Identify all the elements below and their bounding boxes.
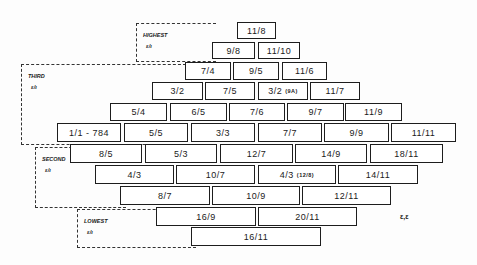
ratio-box: 20/11 — [258, 207, 357, 226]
ratio-label: 11/11 — [412, 128, 436, 138]
ratio-label: 8/5 — [99, 149, 113, 159]
ratio-label: 18/11 — [394, 149, 418, 159]
ratio-label: 3/2 — [268, 86, 282, 96]
ratio-label: 12/11 — [334, 191, 358, 201]
ratio-box: 8/7 — [120, 186, 210, 205]
ratio-label: 4/3 — [127, 170, 141, 180]
ratio-label: 7/5 — [223, 86, 237, 96]
ratio-box: 3/2(9A) — [258, 82, 308, 100]
ratio-note: (12/8) — [297, 172, 314, 178]
ratio-box: 9/9 — [324, 123, 389, 142]
ratio-box: 14/9 — [295, 144, 367, 163]
ratio-label: 14/11 — [366, 170, 390, 180]
ratio-box: 10/9 — [212, 186, 300, 205]
ratio-box: 18/11 — [370, 144, 443, 163]
ratio-label: 4/3 — [280, 170, 294, 180]
ratio-label: 16/11 — [244, 232, 268, 242]
ratio-label: 5/5 — [149, 128, 163, 138]
ratio-box: 5/4 — [110, 103, 167, 121]
ratio-label: 16/9 — [196, 212, 216, 222]
ratio-box: 8/5 — [70, 144, 142, 163]
ratio-box: 11/9 — [345, 103, 402, 121]
ratio-label: 10/7 — [206, 170, 226, 180]
ratio-box: 10/7 — [176, 165, 255, 184]
ratio-box: 11/7 — [310, 82, 360, 100]
ratio-label: 11/8 — [247, 26, 266, 36]
ratio-box: 1/1 - 784 — [57, 123, 121, 142]
ratio-box: 6/5 — [170, 103, 227, 121]
ratio-box: 7/4 — [185, 62, 231, 80]
group-label: THIRD — [28, 73, 45, 79]
ratio-box: 5/3 — [145, 144, 217, 163]
ratio-box: 4/3 — [95, 165, 174, 184]
ratio-label: 20/11 — [295, 212, 319, 222]
ratio-box: 7/7 — [258, 123, 322, 142]
ratio-label: 8/7 — [158, 191, 172, 201]
ratio-box: 9/8 — [212, 42, 255, 59]
ratio-label: 3/3 — [216, 128, 230, 138]
ratio-label: 10/9 — [246, 191, 266, 201]
ratio-box: 3/3 — [191, 123, 255, 142]
ratio-label: 9/9 — [349, 128, 363, 138]
ratio-label: 11/10 — [267, 46, 291, 56]
group-label: SECOND — [42, 156, 66, 162]
ratio-box: 9/5 — [233, 62, 279, 80]
ratio-label: 7/4 — [201, 66, 215, 76]
group-sublabel: ε/ι — [87, 229, 93, 235]
group-sublabel: ε/ι — [45, 167, 51, 173]
ratio-box: 16/9 — [156, 207, 256, 226]
ratio-label: 7/6 — [250, 107, 264, 117]
ratio-box: 12/11 — [302, 186, 391, 205]
ratio-box: 11/11 — [391, 123, 456, 142]
ratio-label: 9/8 — [226, 46, 240, 56]
ratio-label: 11/7 — [326, 86, 345, 96]
ratio-box: 12/7 — [220, 144, 293, 163]
group-label: HIGHEST — [143, 32, 167, 38]
ratio-box: 16/11 — [191, 227, 321, 246]
ratio-box: 11/10 — [258, 42, 300, 59]
group-highest: HIGHESTε/ι — [136, 23, 216, 62]
ratio-label: 6/5 — [191, 107, 205, 117]
group-sublabel: ε/ι — [31, 84, 37, 90]
ratio-label: 11/9 — [364, 107, 383, 117]
group-label: LOWEST — [84, 218, 108, 224]
ratio-label: 1/1 - 784 — [69, 128, 109, 138]
ratio-label: 14/9 — [321, 149, 341, 159]
ratio-label: 9/5 — [249, 66, 263, 76]
ratio-label: 5/4 — [131, 107, 145, 117]
ratio-label: 11/6 — [295, 66, 314, 76]
ratio-note: (9A) — [285, 88, 298, 94]
ratio-label: 12/7 — [247, 149, 267, 159]
group-sublabel: ε/ι — [146, 43, 152, 49]
ratio-box: 11/8 — [237, 22, 276, 39]
ratio-box: 5/5 — [124, 123, 188, 142]
ratio-box: 11/6 — [282, 62, 327, 80]
ratio-box: 7/6 — [229, 103, 285, 121]
ratio-label: 9/7 — [308, 107, 322, 117]
ratio-box: 4/3(12/8) — [258, 165, 336, 184]
ratio-box: 14/11 — [338, 165, 418, 184]
ratio-box: 7/5 — [205, 82, 255, 100]
corner-mark: ε,ε — [400, 213, 409, 220]
ratio-label: 5/3 — [174, 149, 188, 159]
tonality-diamond-diagram: HIGHESTε/ιTHIRDε/ιSECONDε/ιLOWESTε/ι11/8… — [0, 0, 477, 265]
ratio-label: 7/7 — [283, 128, 297, 138]
ratio-box: 9/7 — [287, 103, 344, 121]
ratio-box: 3/2 — [152, 82, 203, 100]
ratio-label: 3/2 — [170, 86, 184, 96]
